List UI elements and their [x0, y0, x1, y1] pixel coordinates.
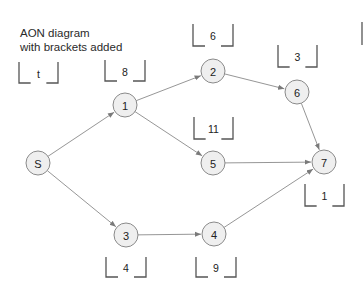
duration-bracket: 4 [106, 257, 146, 277]
node-1: 1 [113, 93, 137, 117]
node-label: 7 [321, 157, 327, 169]
bracket-right [221, 117, 233, 139]
node-label: 6 [294, 87, 300, 99]
bracket-right [305, 45, 317, 67]
bracket-value: 1 [322, 190, 328, 202]
duration-bracket: 8 [105, 60, 145, 81]
bracket-right [332, 184, 344, 206]
bracket-value: 8 [122, 66, 128, 78]
bracket-right [46, 62, 58, 83]
node-label: 5 [210, 158, 216, 170]
node-label: 3 [123, 230, 129, 242]
aon-diagram: S1234567 t86311149 [0, 0, 364, 285]
bracket-value: 9 [213, 262, 219, 274]
node-label: 4 [211, 229, 217, 241]
bracket-value: t [37, 68, 40, 80]
edge-1-to-5 [135, 112, 202, 156]
edge-6-to-7 [301, 103, 319, 150]
duration-bracket: 1 [305, 184, 344, 206]
edge-4-to-7 [224, 169, 313, 227]
node-4: 4 [202, 222, 226, 246]
bracket-left [194, 117, 206, 139]
bracket-left [305, 184, 317, 206]
bracket-left [105, 60, 117, 81]
node-2: 2 [201, 59, 225, 83]
bracket-value: 11 [208, 123, 219, 135]
bracket-value: 4 [123, 262, 129, 274]
nodes-layer: S1234567 [26, 59, 336, 247]
bracket-left [19, 62, 31, 83]
bracket-left [196, 257, 208, 277]
node-label: 1 [122, 100, 128, 112]
duration-bracket: 6 [193, 24, 233, 46]
node-label: S [34, 158, 41, 170]
bracket-left [106, 257, 118, 277]
edge-S-to-1 [48, 112, 114, 156]
brackets-layer: t86311149 [19, 24, 344, 277]
node-7: 7 [312, 150, 336, 174]
bracket-value: 3 [295, 51, 301, 63]
node-6: 6 [285, 80, 309, 104]
duration-bracket: t [19, 62, 58, 83]
duration-bracket: 9 [196, 257, 236, 277]
edge-5-to-7 [225, 162, 311, 163]
duration-bracket: 3 [278, 45, 317, 67]
bracket-left [278, 45, 290, 67]
bracket-value: 6 [210, 30, 216, 42]
edge-S-to-3 [47, 171, 116, 227]
edge-2-to-6 [225, 74, 285, 89]
edge-3-to-4 [138, 234, 201, 235]
bracket-right [133, 60, 145, 81]
bracket-right [134, 257, 146, 277]
node-label: 2 [210, 66, 216, 78]
duration-bracket: 11 [194, 117, 233, 139]
node-3: 3 [114, 223, 138, 247]
node-S: S [26, 151, 50, 175]
edge-1-to-2 [136, 76, 201, 101]
edges-layer [47, 74, 319, 235]
bracket-right [221, 24, 233, 46]
bracket-right [224, 257, 236, 277]
node-5: 5 [201, 151, 225, 175]
bracket-left [193, 24, 205, 46]
